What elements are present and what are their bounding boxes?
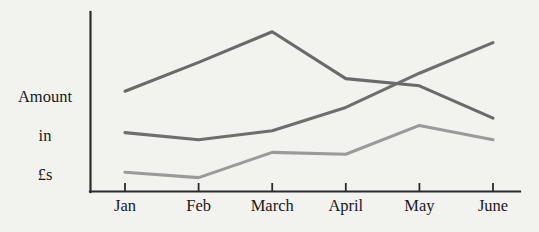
series-line-2 <box>125 43 493 140</box>
x-axis-tick-label: May <box>404 196 435 215</box>
x-axis-tick-label: Feb <box>186 196 211 215</box>
x-axis-tick-label: March <box>251 196 295 215</box>
series-line-1 <box>125 32 493 118</box>
x-axis-tick-label: June <box>478 196 508 215</box>
x-axis-tick-labels: JanFebMarchAprilMayJune <box>114 196 508 215</box>
chart-plot-area: JanFebMarchAprilMayJune <box>0 0 539 232</box>
x-axis-tick-label: Jan <box>114 196 136 215</box>
x-axis-tick-label: April <box>328 196 363 215</box>
line-chart: Amount in £s JanFebMarchAprilMayJune <box>0 0 539 232</box>
series-line-3 <box>125 125 493 177</box>
chart-series-group <box>125 32 493 178</box>
